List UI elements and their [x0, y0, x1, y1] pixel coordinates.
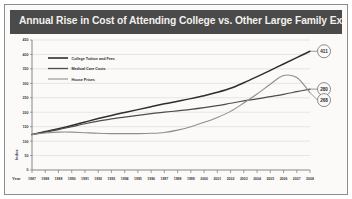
x-axis-tick-label: 1991 — [81, 177, 89, 181]
x-axis-tick-label: 2003 — [240, 177, 248, 181]
x-axis-tick-label: 2007 — [293, 177, 301, 181]
y-axis-tick-label: 200 — [23, 111, 29, 115]
badge-value: 411 — [320, 49, 328, 54]
x-axis-tick-label: 2008 — [306, 177, 314, 181]
chart-frame: Annual Rise in Cost of Attending College… — [4, 4, 348, 195]
y-axis-tick-label: 350 — [23, 67, 29, 71]
value-badge-house-prices: 268 — [310, 93, 331, 107]
value-badge-medical-care-costs: 280 — [310, 83, 331, 96]
x-axis-tick-label: 1988 — [41, 177, 49, 181]
x-axis-tick-label: 2000 — [200, 177, 208, 181]
y-axis-tick-label: 50 — [25, 154, 29, 158]
x-axis-tick-label: 2005 — [266, 177, 274, 181]
y-axis-tick-label: 250 — [23, 96, 29, 100]
legend-item-college-tuition-and-fees[interactable]: College Tuition and Fees — [48, 57, 115, 61]
page-title: Annual Rise in Cost of Attending College… — [19, 15, 342, 26]
chart-title-bar: Annual Rise in Cost of Attending College… — [10, 10, 342, 34]
y-axis-tick-label: 300 — [23, 82, 29, 86]
y-axis-tick-label: 400 — [23, 53, 29, 57]
x-axis-tick-label: 1997 — [160, 177, 168, 181]
badge-value: 280 — [320, 87, 328, 92]
x-axis-tick-label: 1987 — [28, 177, 36, 181]
legend-label: House Prices — [72, 78, 95, 82]
badge-value: 268 — [320, 98, 328, 103]
y-axis-label: Index — [14, 149, 19, 160]
y-axis-tick-label: 450 — [23, 38, 29, 42]
x-axis-tick-label: 2001 — [213, 177, 221, 181]
legend-item-house-prices[interactable]: House Prices — [48, 78, 95, 82]
x-axis-tick-label: 1994 — [121, 177, 129, 181]
chart-plot-area: 0501001502002503003504004501987198819891… — [10, 36, 342, 190]
x-axis-tick-label: 2002 — [227, 177, 235, 181]
x-axis-tick-label: 1993 — [108, 177, 116, 181]
series-line-college-tuition-and-fees — [32, 51, 310, 134]
x-axis-tick-label: 2004 — [253, 177, 261, 181]
y-axis-tick-label: 150 — [23, 125, 29, 129]
x-axis-tick-label: 2006 — [280, 177, 288, 181]
badge-leader-line — [310, 93, 318, 101]
legend-label: Medical Care Costs — [72, 67, 106, 71]
series-line-medical-care-costs — [32, 89, 310, 134]
line-chart: 0501001502002503003504004501987198819891… — [10, 36, 344, 196]
value-badge-college-tuition-and-fees: 411 — [310, 45, 331, 58]
x-axis-tick-label: 1995 — [134, 177, 142, 181]
y-axis-tick-label: 100 — [23, 140, 29, 144]
legend-label: College Tuition and Fees — [72, 57, 115, 61]
x-axis-tick-label: 1990 — [68, 177, 76, 181]
x-axis-tick-label: 1996 — [147, 177, 155, 181]
x-axis-tick-label: 1998 — [174, 177, 182, 181]
x-axis-tick-label: 1989 — [55, 177, 63, 181]
legend-item-medical-care-costs[interactable]: Medical Care Costs — [48, 67, 106, 71]
x-axis-label: Year — [12, 176, 21, 181]
x-axis-tick-label: 1992 — [94, 177, 102, 181]
x-axis-tick-label: 1999 — [187, 177, 195, 181]
y-axis-tick-label: 0 — [27, 168, 29, 172]
